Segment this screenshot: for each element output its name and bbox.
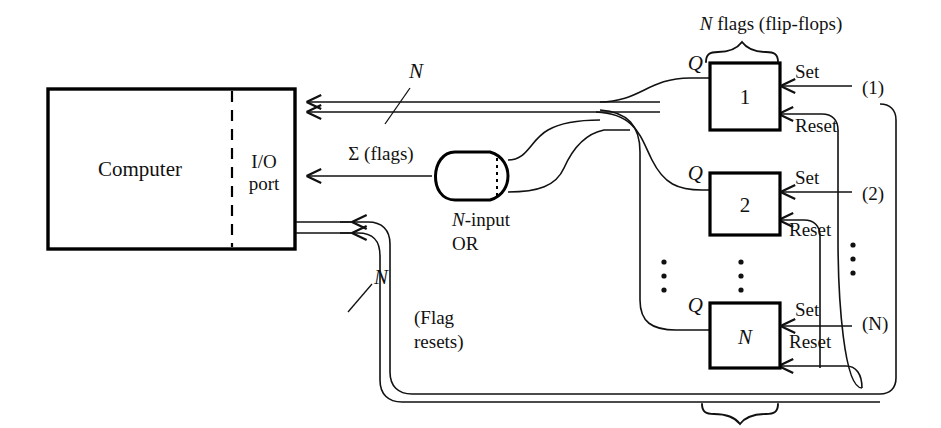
or-input-lower — [508, 130, 630, 192]
ellipsis-left — [661, 259, 666, 292]
figure-canvas: Computer I/O port N Σ (flags) — [0, 0, 941, 428]
io-port-label-line1: I/O — [251, 151, 276, 172]
flipflop-1: 1 Q Set Reset (1) — [688, 51, 884, 136]
flipflop-2-reset-label: Reset — [789, 219, 832, 240]
flag-resets-label-line2: resets) — [414, 331, 464, 353]
reset-trunk-right — [880, 104, 896, 394]
flag-bus-width-tick — [385, 88, 410, 124]
flag-bus-width-label: N — [408, 59, 424, 83]
io-port-label-line2: port — [249, 173, 280, 194]
flag-resets-label-line1: (Flag — [414, 307, 455, 329]
flipflop-2-source-label: (2) — [862, 183, 884, 205]
flag-reset-bus: N (Flag resets) — [296, 222, 880, 402]
flipflop-n-reset-label: Reset — [789, 331, 832, 352]
or-gate-label-input: -input — [465, 209, 511, 230]
reset-bus-width-label: N — [373, 265, 389, 289]
flipflop-1-set-label: Set — [795, 61, 820, 82]
flipflop-n: N Q Set Reset (N) — [688, 293, 889, 368]
flipflop-n-source-label: (N) — [862, 313, 888, 335]
flipflop-1-source-label: (1) — [862, 77, 884, 99]
flipflop-2-q-label: Q — [688, 161, 703, 185]
ellipsis-columns — [661, 242, 855, 292]
flipflop-n-q-label: Q — [688, 293, 703, 317]
figure-title: N flags (flip-flops) — [699, 13, 843, 35]
or-gate-label-line2: OR — [452, 233, 479, 254]
top-brace — [706, 42, 778, 62]
ellipsis-right — [850, 242, 855, 275]
flag-status-bus: N — [308, 59, 710, 330]
flipflop-2: 2 Q Set Reset (2) — [688, 161, 884, 240]
sum-flags-label: Σ (flags) — [348, 143, 413, 165]
reset-bus-width-tick — [348, 284, 372, 312]
bottom-brace-group — [702, 404, 778, 424]
flipflop-2-id: 2 — [740, 193, 751, 217]
ellipsis-center — [738, 259, 743, 292]
block-diagram: Computer I/O port N Σ (flags) — [0, 0, 941, 428]
flipflop-n-id: N — [737, 325, 753, 349]
bottom-brace — [702, 404, 778, 424]
top-brace-group: N flags (flip-flops) — [699, 13, 843, 62]
flipflop-2-set-label: Set — [795, 167, 820, 188]
computer-label: Computer — [98, 157, 182, 181]
or-gate-label-line1: N-input — [451, 209, 511, 230]
flipflop-1-id: 1 — [740, 85, 751, 109]
flipflop-1-reset-label: Reset — [795, 115, 838, 136]
or-input-upper — [508, 120, 600, 160]
flipflop-n-set-label: Set — [795, 299, 820, 320]
q1-branch — [600, 78, 710, 102]
figure-title-rest: flags (flip-flops) — [712, 13, 842, 35]
computer-block: Computer I/O port — [48, 89, 295, 249]
flipflop-1-q-label: Q — [688, 51, 703, 75]
or-gate-group: Σ (flags) N-input OR — [308, 120, 630, 254]
